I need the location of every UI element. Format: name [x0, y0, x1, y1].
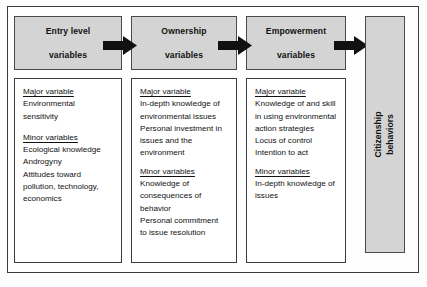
- group-item: Knowledge of and skill: [255, 98, 338, 109]
- group-item: consequences of: [140, 190, 229, 201]
- group-item: to issue resolution: [140, 227, 229, 238]
- group-item: environment: [140, 147, 229, 158]
- group-item: action strategies: [255, 123, 338, 134]
- group-item: pollution, technology,: [23, 181, 114, 192]
- diagram-canvas: Entry level variables Ownership variable…: [0, 0, 427, 287]
- arrow-right-icon: [334, 36, 368, 55]
- arrow-right-icon: [103, 36, 137, 55]
- group-item: sensitivity: [23, 111, 114, 122]
- group-heading: Major variable: [23, 86, 114, 97]
- group-item: In-depth knowledge of: [255, 178, 338, 189]
- stage-header-ownership-line2: variables: [157, 49, 210, 61]
- group-item: Intention to act: [255, 147, 338, 158]
- group-heading: Minor variables: [23, 132, 114, 143]
- group-item: environmental issues: [140, 111, 229, 122]
- group-item: Locus of control: [255, 135, 338, 146]
- group-item: economics: [23, 193, 114, 204]
- group-heading: Minor variables: [255, 166, 338, 177]
- group-item: issues: [255, 190, 338, 201]
- variable-group: Minor variables Knowledge of consequence…: [140, 166, 229, 239]
- stage-header-empowerment: Empowerment variables: [246, 16, 346, 70]
- outcome-box-citizenship-behaviors: Citizenship behaviors: [365, 16, 405, 253]
- group-item: in using environmental: [255, 111, 338, 122]
- outcome-label-line1: Citizenship: [374, 112, 384, 158]
- group-item: Ecological knowledge: [23, 144, 114, 155]
- group-item: Androgyny: [23, 156, 114, 167]
- group-item: Environmental: [23, 98, 114, 109]
- stage-header-entry-level-line1: Entry level: [42, 25, 95, 37]
- stage-header-empowerment-line2: variables: [262, 49, 330, 61]
- variable-group: Major variable Environmental sensitivity: [23, 86, 114, 122]
- group-item: issues and the: [140, 135, 229, 146]
- stage-body-ownership: Major variable In-depth knowledge of env…: [131, 78, 237, 263]
- outcome-label-line2: behaviors: [385, 114, 395, 155]
- group-item: In-depth knowledge of: [140, 98, 229, 109]
- stage-header-ownership-line1: Ownership: [157, 25, 210, 37]
- variable-group: Major variable In-depth knowledge of env…: [140, 86, 229, 159]
- stage-body-empowerment: Major variable Knowledge of and skill in…: [246, 78, 346, 263]
- arrow-right-icon: [218, 36, 252, 55]
- group-heading: Minor variables: [140, 166, 229, 177]
- group-item: Knowledge of: [140, 178, 229, 189]
- stage-body-entry-level: Major variable Environmental sensitivity…: [14, 78, 122, 263]
- group-item: Attitudes toward: [23, 169, 114, 180]
- group-item: behavior: [140, 203, 229, 214]
- group-heading: Major variable: [140, 86, 229, 97]
- group-item: Personal commitment: [140, 215, 229, 226]
- variable-group: Minor variables Ecological knowledge And…: [23, 132, 114, 205]
- variable-group: Major variable Knowledge of and skill in…: [255, 86, 338, 159]
- group-heading: Major variable: [255, 86, 338, 97]
- group-spacer: [23, 123, 114, 132]
- stage-header-entry-level-line2: variables: [42, 49, 95, 61]
- stage-header-empowerment-line1: Empowerment: [262, 25, 330, 37]
- variable-group: Minor variables In-depth knowledge of is…: [255, 166, 338, 202]
- group-item: Personal investment in: [140, 123, 229, 134]
